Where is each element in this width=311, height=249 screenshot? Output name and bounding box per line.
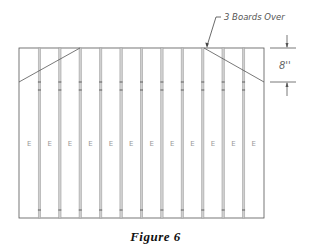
board-seam (38, 48, 40, 218)
board-label: E (47, 140, 51, 148)
right-diagonal-cut-line (204, 48, 264, 82)
board-seam (242, 48, 244, 218)
board-label: E (149, 140, 153, 148)
board-label: E (170, 140, 174, 148)
board: E (27, 140, 31, 148)
board-seam (120, 48, 122, 218)
board: E (58, 48, 72, 218)
board-seam (79, 48, 81, 218)
boards-group: EEEEEEEEEEEE (19, 48, 264, 218)
board-seam (99, 48, 101, 218)
board: E (140, 48, 154, 218)
board: E (181, 48, 195, 218)
board-label: E (88, 140, 92, 148)
callout-label: 3 Boards Over (224, 12, 285, 22)
dimension-label: 8'' (279, 60, 291, 71)
board-seam (161, 48, 163, 218)
board: E (222, 48, 236, 218)
board: E (79, 48, 93, 218)
arrow-up-icon (286, 82, 289, 87)
board: E (99, 48, 113, 218)
board-seam (59, 48, 61, 218)
board: E (201, 48, 215, 218)
arrowhead-icon (205, 43, 209, 49)
board: E (120, 48, 134, 218)
left-diagonal-cut-line (19, 48, 80, 82)
board-label: E (211, 140, 215, 148)
board-label: E (109, 140, 113, 148)
board-layout-diagram: EEEEEEEEEEEE 3 Boards Over 8'' (0, 0, 311, 249)
board: E (38, 48, 52, 218)
board: E (160, 48, 174, 218)
board-label: E (27, 140, 31, 148)
board-seam (222, 48, 224, 218)
board-label: E (68, 140, 72, 148)
callout-leader (205, 17, 221, 48)
figure-caption: Figure 6 (0, 229, 311, 245)
board-label: E (190, 140, 194, 148)
board-label: E (129, 140, 133, 148)
board-seam (181, 48, 183, 218)
board-label: E (252, 140, 256, 148)
arrow-down-icon (286, 43, 289, 48)
board-label: E (231, 140, 235, 148)
board-seam (202, 48, 204, 218)
board-seam (140, 48, 142, 218)
